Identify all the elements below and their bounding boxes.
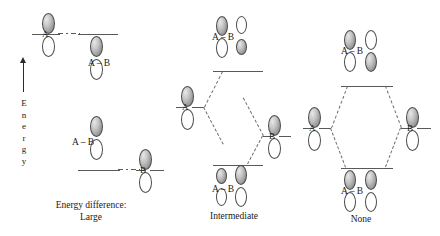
orbital-lobe-empty xyxy=(235,187,247,207)
level-line-b-right xyxy=(150,170,164,171)
caption-line-1: Energy difference: xyxy=(0,199,182,211)
orbital-lobe-filled xyxy=(90,116,103,137)
panel-none: A – B A B A – B xyxy=(305,0,440,236)
orbital-lobe-filled xyxy=(235,165,247,185)
orbital-lobe-filled xyxy=(90,36,103,57)
mo-label-bonding-none: A – B xyxy=(341,186,363,196)
orbital-lobe-empty xyxy=(236,16,247,34)
mo-label-bonding-intermediate: A – B xyxy=(212,184,234,194)
label-a-left: A xyxy=(42,29,49,39)
correlation-line-a-antibonding-none xyxy=(331,86,348,128)
orbital-lobe-empty xyxy=(365,192,377,212)
caption-intermediate: Intermediate xyxy=(178,210,290,222)
correlation-line-a-antibonding xyxy=(204,71,223,107)
orbital-lobe-empty xyxy=(42,36,55,57)
orbital-bonding-b-none xyxy=(365,170,377,212)
panel-intermediate: A – B A B A – B xyxy=(178,0,313,236)
orbital-lobe-empty xyxy=(268,138,281,159)
mo-label-antibonding-none: A – B xyxy=(341,46,363,56)
correlation-line-b-bonding xyxy=(247,136,263,165)
panel-large: A A – B A – B B Energy difference: xyxy=(0,0,185,236)
orbital-lobe-filled xyxy=(216,168,227,184)
mo-label-antibonding-large: A – B xyxy=(88,58,110,68)
label-a-none: A xyxy=(309,123,316,133)
level-line-bonding-large xyxy=(78,170,120,171)
correlation-line-a-bonding-none xyxy=(330,128,346,168)
orbital-lobe-filled xyxy=(236,39,247,55)
label-b-none: B xyxy=(407,123,413,133)
level-line-b-right-none xyxy=(417,128,431,129)
orbital-lobe-empty xyxy=(181,109,194,130)
orbital-lobe-empty xyxy=(308,130,321,151)
orbital-bonding-b-intermediate xyxy=(235,165,247,207)
level-line-antibonding-large xyxy=(78,34,118,35)
label-a-intermediate: A xyxy=(182,102,189,112)
level-line-bonding-none xyxy=(341,168,393,169)
orbital-antibonding-b-intermediate xyxy=(236,16,247,56)
caption-none: None xyxy=(327,213,395,225)
correlation-line-a-bonding xyxy=(203,107,224,145)
mo-energy-diagram-figure: E n e r g y A A – B A – B xyxy=(0,0,440,236)
caption-line-2: Large xyxy=(0,211,182,223)
orbital-lobe-empty xyxy=(406,130,419,151)
orbital-lobe-empty xyxy=(365,30,377,50)
caption-large: Energy difference: Large xyxy=(0,199,182,223)
mo-label-antibonding-intermediate: A – B xyxy=(212,32,234,42)
mo-label-bonding-large: A – B xyxy=(72,137,94,147)
orbital-lobe-filled xyxy=(365,170,377,190)
orbital-antibonding-b-none xyxy=(365,30,377,72)
correlation-line-b-bonding-none xyxy=(385,128,401,168)
label-b-right: B xyxy=(140,165,146,175)
connector-dashdot-top xyxy=(58,33,80,34)
label-b-intermediate: B xyxy=(269,131,275,141)
correlation-line-b-antibonding xyxy=(243,98,264,136)
orbital-lobe-empty xyxy=(139,172,152,193)
orbital-lobe-filled xyxy=(365,52,377,72)
correlation-line-b-antibonding-none xyxy=(385,86,402,128)
